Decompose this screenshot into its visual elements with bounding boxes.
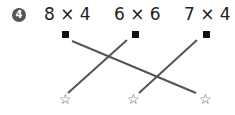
star-icon[interactable]: ☆ [199,92,212,106]
line-2-to-1 [68,40,127,93]
square-dot-2[interactable] [132,31,139,38]
star-icon[interactable]: ☆ [127,92,140,106]
square-dot-3[interactable] [203,31,210,38]
line-1-to-3 [72,41,196,93]
square-dot-1[interactable] [62,31,69,38]
star-icon[interactable]: ☆ [59,92,72,106]
line-3-to-2 [139,40,197,93]
